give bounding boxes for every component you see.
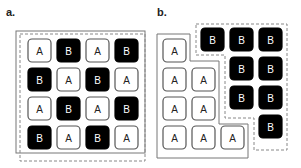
tile-a: A: [221, 126, 244, 149]
tile-letter: B: [267, 93, 274, 104]
tile-b: B: [86, 68, 109, 91]
tile-b: B: [57, 39, 80, 62]
tile-b: B: [259, 57, 282, 80]
tile-b: B: [115, 97, 138, 120]
tile-b: B: [230, 28, 253, 51]
tile-letter: A: [171, 133, 178, 144]
tile-letter: A: [171, 75, 178, 86]
tile-a: A: [163, 39, 186, 62]
tile-a: A: [192, 97, 215, 120]
tile-b: B: [115, 39, 138, 62]
tile-a: A: [163, 126, 186, 149]
tile-b: B: [259, 28, 282, 51]
tile-letter: A: [229, 133, 236, 144]
tile-letter: B: [267, 64, 274, 75]
tile-letter: B: [209, 35, 216, 46]
tile-a: A: [28, 39, 51, 62]
tile-letter: A: [200, 104, 207, 115]
tile-letter: A: [171, 46, 178, 57]
panel-b-tiles: AAAAAAAABBBBBBBB: [163, 28, 282, 149]
tile-letter: B: [94, 133, 101, 144]
tile-letter: B: [238, 64, 245, 75]
tile-a: A: [28, 97, 51, 120]
tile-letter: B: [238, 35, 245, 46]
tile-letter: A: [36, 46, 43, 57]
tile-letter: B: [94, 75, 101, 86]
tile-b: B: [259, 86, 282, 109]
tile-b: B: [201, 28, 224, 51]
tile-letter: A: [94, 46, 101, 57]
tile-letter: B: [65, 46, 72, 57]
tile-letter: A: [200, 75, 207, 86]
tile-letter: A: [123, 133, 130, 144]
tile-letter: B: [36, 133, 43, 144]
tile-a: A: [86, 39, 109, 62]
tile-letter: A: [123, 75, 130, 86]
tile-letter: B: [238, 93, 245, 104]
tile-letter: A: [200, 133, 207, 144]
tile-a: A: [115, 126, 138, 149]
tile-b: B: [230, 57, 253, 80]
tile-a: A: [163, 68, 186, 91]
tile-b: B: [28, 68, 51, 91]
tile-b: B: [230, 86, 253, 109]
tile-letter: B: [65, 104, 72, 115]
panel-a-grid: ABABBABAABABBABA: [28, 39, 138, 149]
tile-letter: B: [267, 122, 274, 133]
tile-letter: A: [94, 104, 101, 115]
tile-letter: A: [65, 75, 72, 86]
lattice-diagram: ABABBABAABABBABA AAAAAAAABBBBBBBB: [0, 0, 301, 168]
tile-b: B: [259, 115, 282, 138]
tile-a: A: [192, 68, 215, 91]
tile-letter: B: [267, 35, 274, 46]
tile-a: A: [115, 68, 138, 91]
tile-a: A: [86, 97, 109, 120]
tile-a: A: [57, 126, 80, 149]
tile-letter: A: [65, 133, 72, 144]
tile-b: B: [28, 126, 51, 149]
tile-letter: B: [36, 75, 43, 86]
tile-letter: B: [123, 104, 130, 115]
tile-a: A: [163, 97, 186, 120]
tile-a: A: [57, 68, 80, 91]
tile-letter: B: [123, 46, 130, 57]
tile-letter: A: [171, 104, 178, 115]
tile-b: B: [86, 126, 109, 149]
tile-a: A: [192, 126, 215, 149]
tile-letter: A: [36, 104, 43, 115]
tile-b: B: [57, 97, 80, 120]
